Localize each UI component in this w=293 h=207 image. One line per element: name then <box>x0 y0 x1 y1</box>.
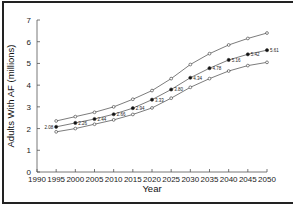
data-point <box>265 49 268 52</box>
data-point <box>93 117 96 120</box>
x-tick-label: 1990 <box>28 175 46 184</box>
data-label: 3.33 <box>155 98 164 103</box>
x-tick-label: 2010 <box>105 175 123 184</box>
data-point <box>227 44 230 47</box>
data-label: 5.42 <box>251 52 260 57</box>
series-group: 2.082.262.442.662.943.333.804.344.785.16… <box>44 32 279 134</box>
data-point <box>208 77 211 80</box>
data-point <box>151 89 154 92</box>
data-label: 5.61 <box>270 48 279 53</box>
x-tick-label: 2000 <box>66 175 84 184</box>
data-point <box>151 107 154 110</box>
data-point <box>131 98 134 101</box>
data-point <box>74 127 77 130</box>
series-estimate: 2.082.262.442.662.943.333.804.344.785.16… <box>44 48 279 130</box>
y-tick-label: 4 <box>27 81 32 90</box>
x-tick-label: 2005 <box>86 175 104 184</box>
data-point <box>55 125 58 128</box>
y-tick-label: 2 <box>27 125 32 134</box>
data-point <box>266 32 269 35</box>
series-line <box>56 33 267 121</box>
data-point <box>131 113 134 116</box>
x-tick-label: 2035 <box>201 175 219 184</box>
x-tick-label: 2015 <box>124 175 142 184</box>
data-point <box>208 52 211 55</box>
data-point <box>246 53 249 56</box>
data-point <box>112 118 115 121</box>
data-label: 4.78 <box>213 66 222 71</box>
data-point <box>208 67 211 70</box>
y-tick-label: 5 <box>27 59 32 68</box>
data-point <box>112 113 115 116</box>
x-tick-label: 2025 <box>162 175 180 184</box>
data-point <box>131 107 134 110</box>
data-label: 2.44 <box>98 117 107 122</box>
data-point <box>266 61 269 64</box>
data-point <box>227 58 230 61</box>
y-axis-title: Adults With AF (millions) <box>5 45 16 148</box>
data-point <box>227 70 230 73</box>
data-point <box>246 37 249 40</box>
data-point <box>246 64 249 67</box>
data-point <box>170 97 173 100</box>
y-tick-label: 1 <box>27 146 32 155</box>
data-point <box>55 130 58 133</box>
data-point <box>189 76 192 79</box>
data-label: 2.08 <box>44 125 53 130</box>
data-label: 5.16 <box>232 58 241 63</box>
x-axis-title: Year <box>142 183 161 194</box>
data-point <box>170 88 173 91</box>
data-point <box>74 121 77 124</box>
x-tick-label: 2050 <box>258 175 276 184</box>
y-tick-label: 6 <box>27 38 32 47</box>
data-point <box>112 105 115 108</box>
y-tick-label: 7 <box>27 16 32 25</box>
data-point <box>189 63 192 66</box>
data-point <box>93 123 96 126</box>
line-chart: 0123456719901995200020052010201520202025… <box>0 0 291 207</box>
data-point <box>150 98 153 101</box>
data-point <box>93 111 96 114</box>
x-tick-label: 1995 <box>47 175 65 184</box>
data-point <box>170 77 173 80</box>
data-point <box>55 120 58 123</box>
data-point <box>74 115 77 118</box>
x-tick-label: 2040 <box>220 175 238 184</box>
data-label: 4.34 <box>193 76 202 81</box>
x-tick-label: 2045 <box>239 175 257 184</box>
data-label: 2.26 <box>78 121 87 126</box>
x-tick-label: 2030 <box>181 175 199 184</box>
series-upper-bound <box>55 32 269 123</box>
data-point <box>189 86 192 89</box>
y-tick-label: 3 <box>27 103 32 112</box>
